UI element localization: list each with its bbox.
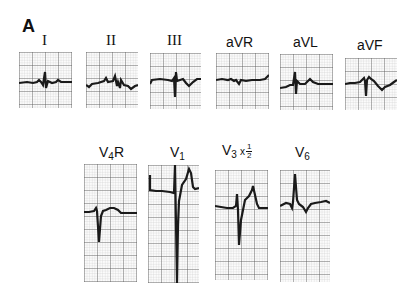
ecg-trace-v1 — [148, 165, 199, 283]
ecg-trace-iii — [150, 53, 201, 109]
ecg-trace-ii — [86, 52, 138, 108]
ecg-trace-avr — [216, 53, 269, 109]
figure-panel-letter: A — [22, 16, 35, 37]
ecg-panel-v1 — [148, 165, 199, 283]
lead-label-v1-main: V — [170, 144, 179, 160]
ecg-panel-ii — [86, 52, 138, 108]
ecg-panel-avl — [280, 54, 333, 110]
ecg-trace-avf — [345, 58, 397, 110]
lead-label-v6: V6 — [295, 145, 310, 164]
ecg-panel-iii — [150, 53, 201, 109]
lead-label-v4r-main: V — [99, 144, 108, 160]
ecg-panel-v4r — [84, 164, 137, 282]
lead-label-v6-sub: 6 — [304, 151, 310, 162]
lead-label-v1-sub: 1 — [179, 151, 185, 162]
lead-label-v3-scale: 12 — [246, 143, 252, 160]
ecg-panel-v6 — [280, 170, 330, 282]
lead-label-v3: V3x12 — [222, 143, 252, 162]
ecg-panel-avr — [216, 53, 269, 109]
lead-label-avr: aVR — [226, 35, 253, 49]
ecg-trace-v4r — [84, 164, 137, 282]
lead-label-i: I — [42, 33, 47, 47]
ecg-trace-v3 — [215, 170, 268, 280]
lead-label-v3-times: x — [240, 146, 245, 157]
lead-label-v3-sub: 3 — [231, 149, 237, 160]
lead-label-avl: aVL — [293, 35, 318, 49]
ecg-trace-v6 — [280, 170, 330, 282]
lead-label-iii: III — [167, 33, 182, 47]
lead-label-v4r: V4R — [99, 145, 124, 164]
ecg-panel-avf — [345, 58, 397, 110]
ecg-trace-avl — [280, 54, 333, 110]
lead-label-ii: II — [106, 33, 116, 47]
lead-label-avf: aVF — [357, 38, 383, 52]
lead-label-v3-main: V — [222, 142, 231, 158]
lead-label-v1: V1 — [170, 145, 185, 164]
ecg-panel-i — [19, 52, 72, 108]
lead-label-v6-main: V — [295, 144, 304, 160]
ecg-panel-v3 — [215, 170, 268, 280]
lead-label-v4r-suffix: R — [114, 144, 124, 160]
ecg-trace-i — [19, 52, 72, 108]
